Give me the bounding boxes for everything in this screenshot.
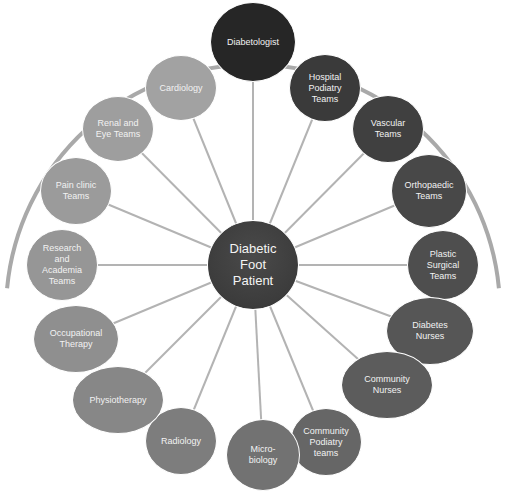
node-pain-clinic: Pain clinic Teams (40, 157, 112, 225)
node-orthopaedic: Orthopaedic Teams (391, 154, 467, 228)
node-label: Community Nurses (360, 374, 414, 396)
node-occupational-therapy: Occupational Therapy (33, 305, 119, 373)
node-physiotherapy: Physiotherapy (72, 366, 164, 434)
node-label: Hospital Podiatry Teams (304, 72, 345, 105)
node-label: Diabetologist (223, 37, 283, 48)
node-label: Cardiology (155, 83, 206, 94)
node-renal-eye: Renal and Eye Teams (82, 96, 154, 162)
node-research-academia: Research and Academia Teams (26, 229, 98, 301)
node-label: Vascular Teams (367, 118, 409, 140)
node-plastic-surgical: Plastic Surgical Teams (407, 230, 479, 300)
node-label: Occupational Therapy (46, 328, 107, 350)
node-label: Radiology (157, 436, 205, 447)
center-node-diabetic-foot-patient: Diabetic Foot Patient (207, 220, 299, 310)
node-label: Research and Academia Teams (38, 243, 86, 287)
node-label: Pain clinic Teams (52, 180, 101, 202)
node-label: Orthopaedic Teams (400, 180, 457, 202)
node-label: Diabetes Nurses (408, 320, 452, 342)
node-community-nurses: Community Nurses (341, 351, 433, 419)
node-label: Renal and Eye Teams (92, 118, 144, 140)
node-label: Plastic Surgical Teams (423, 249, 464, 282)
node-microbiology: Micro- biology (226, 419, 300, 491)
node-vascular: Vascular Teams (352, 95, 424, 163)
node-label: Physiotherapy (85, 395, 150, 406)
node-label: Micro- biology (245, 444, 282, 466)
node-cardiology: Cardiology (145, 55, 217, 121)
node-hospital-podiatry: Hospital Podiatry Teams (289, 54, 361, 122)
center-node-label: Diabetic Foot Patient (226, 241, 281, 289)
mdt-diagram: DiabetologistHospital Podiatry TeamsVasc… (0, 0, 511, 492)
node-community-podiatry: Community Podiatry teams (290, 408, 362, 476)
node-label: Community Podiatry teams (299, 426, 353, 459)
node-diabetologist: Diabetologist (210, 2, 296, 82)
